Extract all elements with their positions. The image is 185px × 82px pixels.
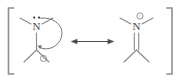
resonance-arrow (71, 39, 114, 44)
left-bracket (9, 8, 14, 74)
bond-n-c-double (134, 33, 138, 50)
nitrogen-label-left: N (33, 20, 41, 32)
structure-left: N + (20, 16, 62, 62)
right-bracket (167, 8, 172, 74)
bond-c-methyl-left (24, 50, 37, 62)
bond-n-methyl-left-2 (120, 18, 131, 24)
curved-electron-arrow (38, 18, 62, 49)
resonance-diagram-canvas: N + (0, 0, 185, 82)
nitrogen-charge-symbol: + (139, 13, 142, 18)
bond-n-methyl-left (20, 18, 31, 24)
nitrogen-label-right: N (133, 20, 141, 32)
carbon-charge-symbol: + (42, 56, 45, 61)
bond-n-methyl-right-2 (142, 18, 153, 24)
bond-c-methyl-left-2 (124, 50, 137, 62)
nitrogen-positive-charge: + (137, 13, 143, 19)
bond-c-methyl-right-2 (137, 50, 150, 62)
lone-pair-dots (33, 16, 40, 18)
resonance-diagram-svg: N + (0, 0, 185, 82)
structure-right: N + (120, 13, 153, 62)
